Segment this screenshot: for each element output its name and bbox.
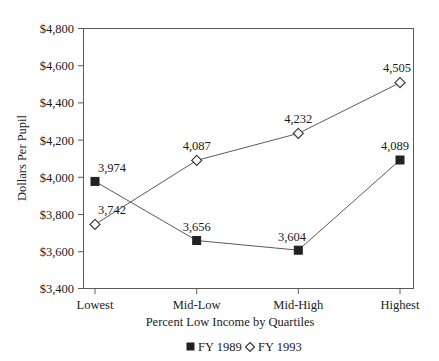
y-axis-label-4000: $4,000: [40, 171, 74, 185]
y-axis-label-4800: $4,800: [40, 22, 74, 36]
x-axis-labels: Lowest Mid-Low Mid-High Highest: [77, 298, 420, 312]
data-label-fy1993-mid-high: 4,232: [284, 112, 312, 126]
y-axis-label-4400: $4,400: [40, 96, 74, 110]
series-line-fy-1993: [95, 83, 400, 225]
y-axis-ticks: [78, 29, 84, 289]
chart-legend: FY 1989 FY 1993: [187, 340, 302, 354]
data-point-fy1989-mid-high: [294, 246, 302, 254]
legend-label-fy-1989: FY 1989: [198, 340, 242, 354]
series-markers-fy-1989: [91, 156, 404, 254]
data-point-fy1989-lowest: [91, 177, 99, 185]
x-axis-title: Percent Low Income by Quartiles: [146, 315, 315, 329]
data-label-fy1989-mid-high: 3,604: [278, 230, 307, 244]
legend-label-fy-1993: FY 1993: [258, 340, 302, 354]
plot-frame: [84, 29, 414, 289]
data-label-fy1989-highest: 4,089: [381, 139, 409, 153]
data-point-fy1989-highest: [396, 156, 404, 164]
x-axis-label-lowest: Lowest: [77, 298, 114, 312]
data-point-fy1989-mid-low: [193, 237, 201, 245]
plot-border: [84, 29, 414, 289]
y-axis-label-3400: $3,400: [40, 282, 74, 296]
y-axis-title: Dollars Per Pupil: [15, 114, 29, 201]
data-point-fy1993-mid-low: [192, 155, 202, 165]
data-label-fy1993-highest: 4,505: [383, 61, 411, 75]
legend-marker-fy-1993: [246, 343, 255, 352]
data-point-fy1993-mid-high: [293, 128, 303, 138]
data-labels-fy-1993: 3,742 4,087 4,232 4,505: [98, 61, 411, 217]
series-markers-fy-1993: [90, 78, 405, 230]
y-axis-label-3600: $3,600: [40, 245, 74, 259]
data-label-fy1993-lowest: 3,742: [98, 203, 126, 217]
data-point-fy1993-lowest: [90, 219, 100, 229]
series-line-fy-1989: [95, 160, 400, 250]
y-axis-labels: $4,800 $4,600 $4,400 $4,200 $4,000 $3,80…: [40, 22, 74, 296]
legend-marker-fy-1989: [187, 343, 194, 350]
data-label-fy1989-lowest: 3,974: [98, 161, 127, 175]
chart-figure: $4,800 $4,600 $4,400 $4,200 $4,000 $3,80…: [0, 0, 439, 361]
data-point-fy1993-highest: [395, 78, 405, 88]
y-axis-label-4200: $4,200: [40, 134, 74, 148]
x-axis-label-mid-high: Mid-High: [273, 298, 324, 312]
y-axis-label-4600: $4,600: [40, 59, 74, 73]
data-label-fy1989-mid-low: 3,656: [183, 220, 211, 234]
data-labels-fy-1989: 3,974 3,656 3,604 4,089: [98, 139, 409, 244]
x-axis-label-mid-low: Mid-Low: [173, 298, 221, 312]
x-axis-label-highest: Highest: [381, 298, 420, 312]
x-axis-ticks: [95, 289, 400, 295]
data-label-fy1993-mid-low: 4,087: [183, 139, 211, 153]
line-chart: $4,800 $4,600 $4,400 $4,200 $4,000 $3,80…: [0, 0, 439, 361]
y-axis-label-3800: $3,800: [40, 208, 74, 222]
